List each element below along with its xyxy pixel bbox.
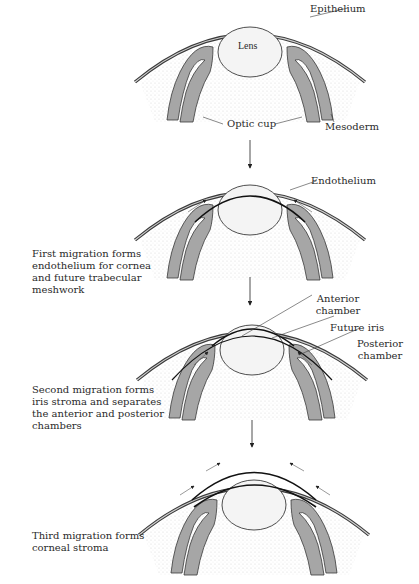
panel-stage-1 xyxy=(135,181,365,280)
caption-second-migration: Second migration forms iris stroma and s… xyxy=(32,384,167,432)
panel-stage-3 xyxy=(139,463,369,575)
label-anterior-chamber: Anterior chamber xyxy=(313,293,363,317)
label-lens: Lens xyxy=(238,40,257,52)
label-mesoderm: Mesoderm xyxy=(325,121,379,133)
label-epithelium: Epithelium xyxy=(310,3,366,15)
caption-third-migration: Third migration forms corneal stroma xyxy=(32,530,152,554)
label-optic-cup: Optic cup xyxy=(227,118,276,130)
label-future-iris: Future iris xyxy=(330,322,384,334)
label-endothelium: Endothelium xyxy=(311,175,376,187)
caption-first-migration: First migration forms endothelium for co… xyxy=(32,248,167,296)
label-posterior-chamber: Posterior chamber xyxy=(355,338,405,362)
panel-stage-0 xyxy=(135,8,365,124)
